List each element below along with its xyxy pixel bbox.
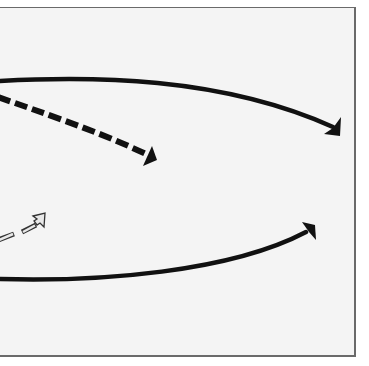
hollow-dashed-arrow: [0, 213, 45, 240]
dashed-arrow: [0, 97, 157, 166]
top-solid-arc-arrow: [0, 79, 341, 136]
arrowhead-icon: [143, 146, 157, 166]
bottom-solid-arc-arrow: [0, 222, 316, 279]
diagram-canvas: [0, 0, 369, 366]
